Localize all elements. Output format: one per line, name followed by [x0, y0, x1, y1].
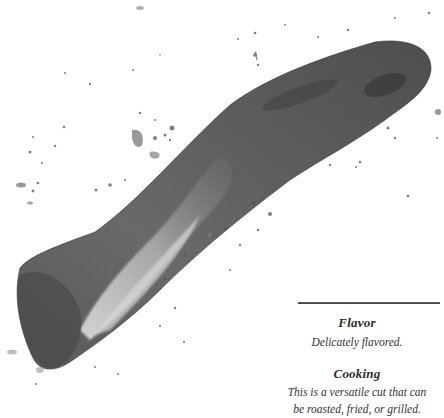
flavor-description: Delicately flavored. — [270, 334, 444, 351]
page: Flavor Delicately flavored. Cooking This… — [0, 0, 444, 418]
cooking-heading: Cooking — [270, 366, 444, 382]
cooking-description-line-2: be roasted, fried, or grilled. — [270, 401, 444, 418]
flavor-heading: Flavor — [270, 315, 444, 331]
cooking-description: This is a versatile cut that can be roas… — [270, 384, 444, 418]
meat-cut-illustration — [0, 0, 444, 418]
cooking-description-line-1: This is a versatile cut that can — [270, 384, 444, 401]
divider-line — [298, 302, 440, 304]
